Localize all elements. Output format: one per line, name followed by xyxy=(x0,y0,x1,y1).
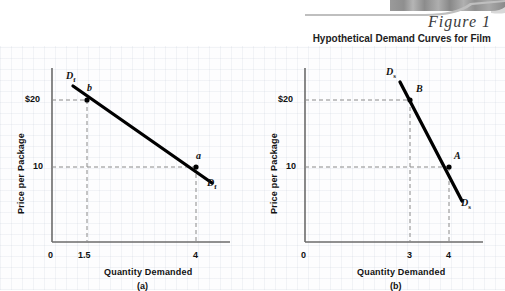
chart-a-point-a xyxy=(193,164,198,169)
chart-b-point-label-A: A xyxy=(454,150,461,161)
chart-a-ytick-20: $20 xyxy=(25,94,40,104)
chart-b-ytick-20: $20 xyxy=(278,94,293,104)
chart-a-point-b xyxy=(84,97,89,102)
chart-a-x-axis-label: Quantity Demanded xyxy=(104,267,192,277)
chart-a-xtick-4: 4 xyxy=(193,250,198,260)
figure-header: Figure 1 Hypothetical Demand Curves for … xyxy=(0,0,505,46)
chart-a-point-label-b: b xyxy=(87,82,92,93)
decorative-gradient-bar xyxy=(390,0,505,11)
chart-b-x-axis-label: Quantity Demanded xyxy=(357,267,445,277)
chart-a-caption: (a) xyxy=(137,281,148,291)
chart-b-xtick-0: 0 xyxy=(301,250,306,260)
chart-a-ytick-10: 10 xyxy=(33,161,43,171)
chart-b-ytick-10: 10 xyxy=(286,161,296,171)
chart-b-curve-label-top-sub: s xyxy=(393,72,396,80)
chart-a-curve-label-top: Df xyxy=(66,70,76,84)
chart-a-point-label-a: a xyxy=(196,150,201,161)
chart-a-y-axis-label: Price per Package xyxy=(16,133,26,214)
figure-board: Price per Package $20 10 0 1.5 4 Quantit… xyxy=(0,46,505,290)
chart-a-xtick-1-5: 1.5 xyxy=(78,250,91,260)
chart-b-xtick-3: 3 xyxy=(407,250,412,260)
chart-b-caption: (b) xyxy=(390,281,402,291)
chart-b-point-B xyxy=(407,97,412,102)
figure-subtitle: Hypothetical Demand Curves for Film xyxy=(313,33,491,44)
chart-panel-b: Price per Package $20 10 0 3 4 Quantity … xyxy=(253,46,505,290)
chart-b-xtick-4: 4 xyxy=(446,250,451,260)
chart-a-curve-label-top-sub: f xyxy=(73,76,75,84)
chart-b-point-A xyxy=(446,164,451,169)
chart-b-curve-label-bottom: Ds xyxy=(461,197,471,211)
chart-a-xtick-0: 0 xyxy=(48,250,53,260)
figure-number: Figure 1 xyxy=(428,13,491,31)
chart-a-demand-curve xyxy=(73,86,212,183)
chart-b-point-label-B: B xyxy=(416,83,423,94)
chart-a-curve-label-bottom-sub: f xyxy=(214,183,216,191)
chart-b-curve-label-top: Ds xyxy=(386,66,396,80)
chart-a-curve-label-bottom: Df xyxy=(207,177,217,191)
chart-panel-a: Price per Package $20 10 0 1.5 4 Quantit… xyxy=(0,46,253,290)
chart-b-curve-label-bottom-sub: s xyxy=(468,203,471,211)
chart-b-y-axis-label: Price per Package xyxy=(269,133,279,214)
